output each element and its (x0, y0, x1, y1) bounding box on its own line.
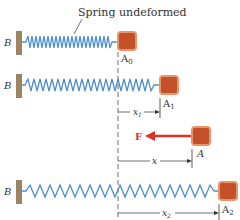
dim-label-x: x (152, 156, 157, 166)
block-label-a2: A2 (221, 204, 234, 217)
spring (22, 79, 160, 91)
block-a2 (219, 182, 237, 200)
row-force: F A x (118, 127, 210, 168)
wall (16, 180, 22, 204)
block-a1 (160, 76, 178, 94)
block-a (192, 127, 210, 145)
force-label: F (135, 131, 142, 142)
block-label-a0: A0 (120, 53, 133, 66)
wall (16, 31, 22, 55)
row-undeformed: B A0 (3, 31, 136, 66)
block-label-a: A (196, 148, 204, 159)
dim-label-x2: x2 (162, 208, 171, 219)
row-displacement-x2: B A2 x2 (3, 180, 237, 220)
block-a0 (118, 32, 136, 50)
wall-label: B (3, 186, 11, 197)
wall-label: B (3, 80, 11, 91)
caption-leader (74, 19, 82, 34)
wall-label: B (3, 37, 11, 48)
spring-compressed-coils (22, 36, 118, 48)
wall (16, 74, 22, 98)
caption-text: Spring undeformed (78, 6, 187, 19)
row-displacement-x1: B A1 x1 (3, 74, 178, 118)
spring-extended (22, 185, 219, 197)
dim-label-x1: x1 (133, 107, 142, 118)
block-label-a1: A1 (162, 98, 175, 111)
spring-mass-diagram: Spring undeformed B A0 B A1 x1 F A x B (0, 0, 240, 220)
